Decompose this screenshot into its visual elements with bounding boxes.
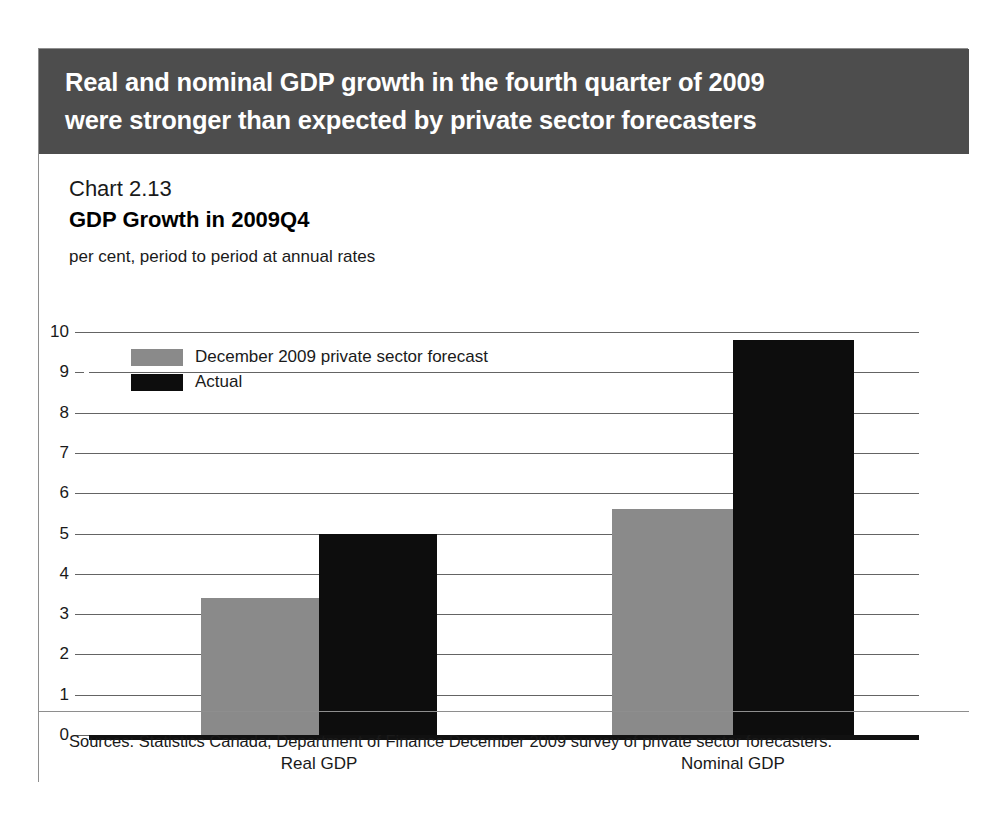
x-axis-label-real-gdp: Real GDP [161, 754, 477, 774]
bar-nominal-gdp-forecast [612, 509, 733, 735]
bar-real-gdp-actual [319, 534, 437, 736]
y-axis-label-1: 1 [39, 686, 69, 703]
y-axis-label-8: 8 [39, 404, 69, 421]
legend-swatch-forecast-icon [131, 349, 183, 366]
legend-item-actual: Actual [131, 371, 488, 393]
y-axis-label-10: 10 [39, 323, 69, 340]
y-axis-label-2: 2 [39, 645, 69, 662]
x-axis-label-nominal-gdp: Nominal GDP [572, 754, 894, 774]
y-axis-tick-6 [75, 493, 89, 494]
gridline-10 [89, 332, 919, 333]
y-axis-tick-8 [75, 413, 89, 414]
legend-swatch-actual-icon [131, 374, 183, 391]
plot-area: 012345678910Real GDPNominal GDP [39, 154, 969, 782]
y-axis-tick-7 [75, 453, 89, 454]
y-axis-label-3: 3 [39, 605, 69, 622]
y-axis-tick-4 [75, 574, 89, 575]
chart-card: Chart 2.13 GDP Growth in 2009Q4 per cent… [39, 154, 969, 782]
header-banner-line-1: Real and nominal GDP growth in the fourt… [65, 63, 943, 101]
header-banner-line-2: were stronger than expected by private s… [65, 101, 943, 139]
bar-real-gdp-forecast [201, 598, 319, 735]
legend-item-forecast: December 2009 private sector forecast [131, 346, 488, 368]
y-axis-label-5: 5 [39, 525, 69, 542]
y-axis-label-6: 6 [39, 484, 69, 501]
y-axis-tick-10 [75, 332, 89, 333]
y-axis-tick-1 [75, 695, 89, 696]
y-axis-label-7: 7 [39, 444, 69, 461]
y-axis-tick-9 [75, 372, 84, 373]
y-axis-label-4: 4 [39, 565, 69, 582]
y-axis-tick-5 [75, 534, 89, 535]
y-axis-label-9: 9 [39, 363, 69, 380]
figure-frame: Real and nominal GDP growth in the fourt… [38, 48, 968, 782]
chart-legend: December 2009 private sector forecast Ac… [131, 346, 488, 396]
source-divider [39, 711, 969, 712]
legend-label-forecast: December 2009 private sector forecast [195, 347, 488, 367]
y-axis-tick-2 [75, 654, 89, 655]
legend-label-actual: Actual [195, 372, 242, 392]
header-banner: Real and nominal GDP growth in the fourt… [39, 49, 969, 154]
y-axis-tick-3 [75, 614, 89, 615]
y-axis-label-0: 0 [39, 726, 69, 743]
bar-nominal-gdp-actual [733, 340, 854, 735]
source-note: Sources: Statistics Canada; Department o… [69, 732, 832, 751]
